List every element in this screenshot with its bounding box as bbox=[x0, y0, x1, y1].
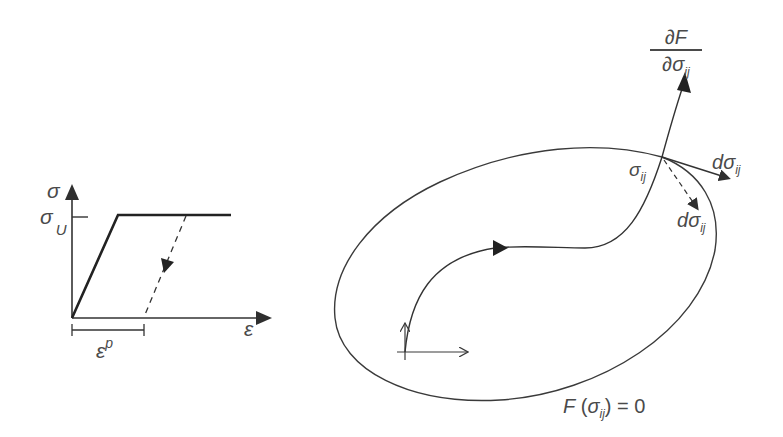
inward-increment-label: dσij bbox=[677, 210, 706, 234]
stress-path-curve bbox=[405, 86, 683, 352]
gradient-numerator: ∂F bbox=[655, 27, 697, 49]
tangent-increment-label: dσij bbox=[712, 152, 741, 176]
stress-path-arrow-icon bbox=[493, 240, 508, 256]
plastic-strain-label: εp bbox=[96, 338, 113, 361]
stress-point-label: σij bbox=[629, 160, 646, 183]
yield-surface-plot bbox=[335, 72, 728, 400]
yield-surface-equation: F (σij) = 0 bbox=[563, 396, 645, 420]
stress-strain-plot bbox=[72, 188, 268, 336]
epsilon-axis-label: ε bbox=[244, 318, 253, 339]
sigma-axis-label: σ bbox=[47, 180, 60, 201]
gradient-denominator: ∂σij bbox=[662, 51, 689, 78]
yield-surface-curve bbox=[335, 148, 717, 401]
gradient-fraction-label: ∂F ∂σij bbox=[650, 27, 702, 78]
yield-stress-label: σU bbox=[40, 206, 64, 231]
elastic-plastic-curve bbox=[72, 215, 231, 318]
